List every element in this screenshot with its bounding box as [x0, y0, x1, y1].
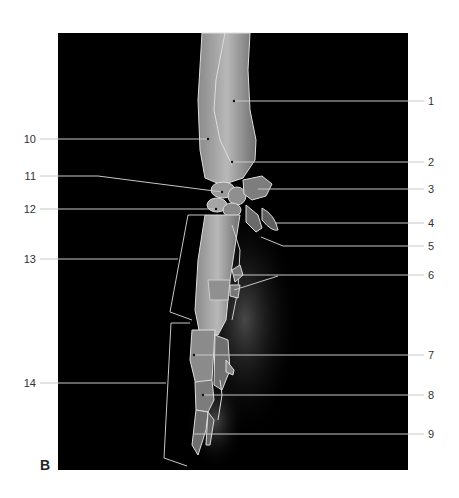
- label-13: 13: [14, 253, 36, 265]
- label-9: 9: [428, 428, 434, 440]
- panel-letter: B: [40, 457, 50, 473]
- label-12: 12: [14, 203, 36, 215]
- label-5: 5: [428, 240, 434, 252]
- label-14: 14: [14, 377, 36, 389]
- label-8: 8: [428, 389, 434, 401]
- label-1: 1: [428, 95, 434, 107]
- radiograph-figure: [0, 0, 459, 498]
- label-3: 3: [428, 183, 434, 195]
- label-10: 10: [14, 133, 36, 145]
- label-2: 2: [428, 156, 434, 168]
- label-4: 4: [428, 217, 434, 229]
- label-7: 7: [428, 349, 434, 361]
- label-11: 11: [14, 170, 36, 182]
- label-6: 6: [428, 269, 434, 281]
